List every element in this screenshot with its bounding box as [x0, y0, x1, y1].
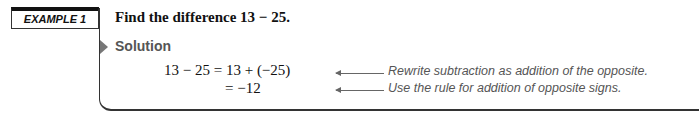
step-1-expression: 13 − 25 = 13 + (−25) — [164, 62, 290, 79]
example-title: Find the difference 13 − 25. — [115, 9, 290, 26]
solution-label: Solution — [115, 38, 171, 54]
example-label: EXAMPLE 1 — [11, 7, 99, 29]
left-arrow-icon — [336, 73, 384, 74]
left-arrow-icon — [336, 90, 384, 91]
step-2-expression: = −12 — [225, 80, 261, 97]
step-2-note: Use the rule for addition of opposite si… — [388, 81, 621, 95]
solution-arrow-icon — [100, 40, 108, 54]
step-1-note: Rewrite subtraction as addition of the o… — [388, 64, 648, 78]
